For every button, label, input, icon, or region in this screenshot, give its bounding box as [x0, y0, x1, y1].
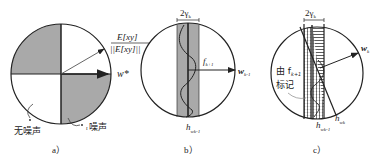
- marked-label-line2: 标记: [276, 79, 294, 90]
- marked-pointer-curve: [288, 93, 306, 98]
- annotation-curve-left: [28, 104, 33, 118]
- panel-b: 2γk fk+1 wk-1 hwk-1 b）: [141, 8, 250, 155]
- h-wk-label: hwk: [335, 113, 346, 125]
- band-label-c: 2γk: [305, 8, 316, 19]
- panel-c: 2γk wk 由 fk+1 标记 hwk-1 hwk c）: [271, 8, 370, 155]
- f-label-b: fk+1: [203, 56, 214, 67]
- no-noise-label: 无噪声: [14, 125, 41, 136]
- band-label-b: 2γk: [180, 8, 191, 19]
- caption-a: a）: [52, 145, 65, 155]
- w-star-label: w*: [117, 68, 129, 79]
- svg-text:ι: ι: [86, 125, 88, 131]
- exy-numerator: E[xy]: [116, 32, 138, 42]
- exy-denominator: ||E[xy]||: [110, 44, 140, 54]
- caption-c: c）: [313, 145, 326, 155]
- panel-a: E[xy] ||E[xy]|| w* 无噪声 ι 噪声 a）: [11, 24, 150, 155]
- h-wk-1-label: hwk-1: [316, 120, 330, 132]
- w-label-b: wk-1: [238, 66, 250, 77]
- w-label-c: wk: [361, 43, 370, 54]
- w-k-arrow: [320, 53, 358, 68]
- figure-canvas: E[xy] ||E[xy]|| w* 无噪声 ι 噪声 a） 2γk fk+1 …: [0, 0, 383, 162]
- exy-arrow: [61, 49, 104, 74]
- shaded-quadrant-top-left: [11, 24, 61, 74]
- h-label-b: hwk-1: [186, 122, 200, 134]
- marked-by-f-label: 由 fk+1: [276, 65, 301, 77]
- shaded-quadrant-bottom-right: [61, 74, 111, 124]
- caption-b: b）: [184, 145, 198, 155]
- noise-label: 噪声: [89, 121, 107, 132]
